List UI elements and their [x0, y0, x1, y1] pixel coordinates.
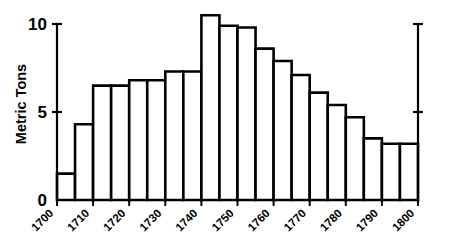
x-tick-label: 1730	[137, 207, 164, 234]
bar	[382, 144, 400, 200]
y-tick-label: 10	[28, 15, 47, 34]
bar	[256, 49, 274, 200]
bar	[129, 80, 147, 200]
x-tick-label: 1740	[173, 207, 200, 234]
x-tick-label: 1790	[354, 207, 381, 234]
x-tick-label: 1760	[245, 207, 272, 234]
x-tick-label: 1700	[29, 207, 56, 234]
bar	[400, 144, 418, 200]
bar	[219, 26, 237, 200]
y-tick-label: 5	[38, 103, 47, 122]
histogram-chart: 0510170017101720173017401750176017701780…	[0, 0, 454, 245]
bar	[165, 72, 183, 200]
bar	[201, 15, 219, 200]
x-tick-label: 1770	[282, 207, 309, 234]
bars-group	[57, 15, 418, 200]
bar	[183, 72, 201, 200]
bar	[93, 86, 111, 200]
bar	[310, 93, 328, 200]
bar	[346, 117, 364, 200]
x-tick-label: 1720	[101, 207, 128, 234]
bar	[274, 61, 292, 200]
bar	[292, 75, 310, 200]
x-tick-label: 1750	[209, 207, 236, 234]
bar	[111, 86, 129, 200]
x-tick-label: 1710	[65, 207, 92, 234]
bar	[147, 80, 165, 200]
bar	[364, 138, 382, 200]
x-tick-label: 1780	[318, 207, 345, 234]
x-tick-label: 1800	[390, 207, 417, 234]
bar	[75, 124, 93, 200]
bar	[57, 174, 75, 200]
y-axis-title: Metric Tons	[13, 64, 29, 144]
bar	[238, 28, 256, 200]
bar	[328, 105, 346, 200]
chart-canvas: 0510170017101720173017401750176017701780…	[0, 0, 454, 245]
